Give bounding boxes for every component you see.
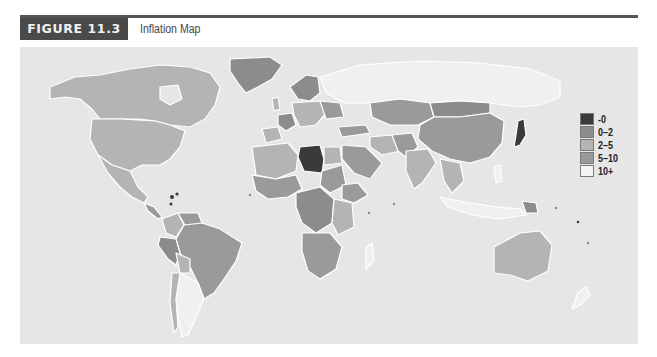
legend-swatch (580, 165, 594, 177)
region-libya (298, 145, 324, 173)
region-peru (158, 237, 180, 265)
legend-label: 2–5 (598, 139, 613, 151)
region-west-africa (252, 175, 302, 199)
legend-swatch (580, 126, 594, 138)
region-canada (50, 65, 220, 127)
region-madagascar (366, 243, 374, 269)
region-france (278, 113, 296, 131)
world-map: -0 0–2 2–5 5–10 10+ (20, 47, 638, 344)
legend-item: 10+ (580, 164, 621, 177)
legend-item: 5–10 (580, 151, 621, 164)
legend-swatch (580, 139, 594, 151)
map-svg (20, 47, 638, 344)
region-turkey (338, 125, 370, 137)
legend-item: -0 (580, 112, 621, 125)
region-uk (272, 97, 280, 111)
region-central-america (144, 203, 162, 219)
region-kazakhstan (370, 99, 434, 125)
region-scandinavia (290, 75, 320, 101)
legend: -0 0–2 2–5 5–10 10+ (580, 112, 621, 177)
region-russia (320, 61, 560, 107)
region-north-africa-west (252, 143, 298, 179)
region-southern-africa (302, 233, 342, 279)
region-ethiopia (342, 183, 368, 203)
region-egypt (324, 147, 342, 165)
region-central-africa (296, 187, 334, 233)
region-greenland (230, 57, 282, 93)
figure-label: FIGURE 11.3 (20, 18, 128, 40)
region-australia (494, 231, 552, 281)
region-png (522, 201, 538, 213)
region-japan (514, 119, 526, 147)
region-east-africa (332, 199, 354, 235)
legend-swatch (580, 152, 594, 164)
legend-label: 10+ (598, 165, 613, 177)
region-se-asia (440, 159, 464, 193)
region-indonesia (440, 197, 526, 219)
region-india (406, 149, 436, 189)
legend-label: -0 (598, 113, 606, 125)
legend-item: 2–5 (580, 138, 621, 151)
region-iberia (262, 127, 282, 143)
region-philippines (494, 165, 502, 183)
legend-label: 0–2 (598, 126, 613, 138)
legend-item: 0–2 (580, 125, 621, 138)
region-new-zealand (572, 287, 590, 309)
figure-title: Inflation Map (140, 18, 200, 40)
legend-label: 5–10 (598, 152, 618, 164)
legend-swatch (580, 113, 594, 125)
